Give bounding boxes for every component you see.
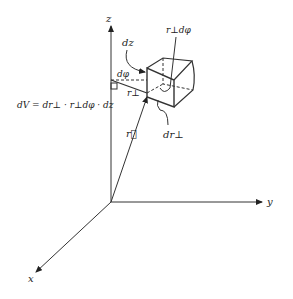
- r-perp-dphi-label: r⊥dφ: [166, 26, 191, 35]
- cylindrical-volume-element-diagram: [0, 0, 293, 299]
- volume-element-side: [174, 61, 194, 107]
- dphi-label: dφ: [117, 70, 129, 79]
- volume-formula: dV = dr⊥ · r⊥dφ · dz: [17, 101, 114, 110]
- x-axis-label: x: [28, 274, 34, 284]
- r-vector-label: r⃗: [126, 129, 137, 139]
- r-perp-label: r⊥: [127, 89, 140, 98]
- dr-perp-label: dr⊥: [163, 130, 184, 140]
- y-axis-label: y: [267, 197, 273, 207]
- right-angle-marker: [111, 83, 117, 89]
- x-axis: [36, 202, 111, 272]
- dz-label: dz: [122, 38, 134, 48]
- z-axis-label: z: [106, 14, 111, 24]
- volume-element-top: [147, 58, 192, 80]
- r-vector: [111, 97, 147, 202]
